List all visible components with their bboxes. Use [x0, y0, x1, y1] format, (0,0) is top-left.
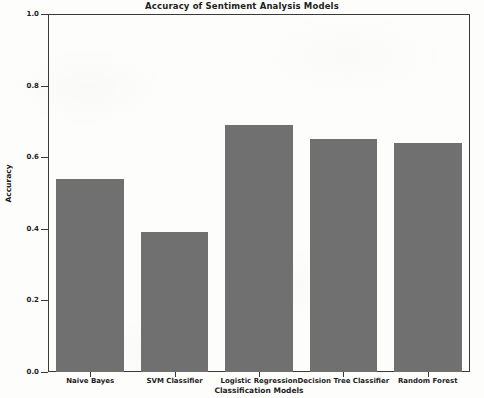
y-axis-tick-label: 0.0 [0, 368, 39, 376]
y-axis-tick-label: 1.0 [0, 10, 39, 18]
bar [310, 139, 378, 372]
y-axis-tick [41, 157, 48, 158]
y-axis-tick-label: 0.8 [0, 82, 39, 90]
bars-layer [48, 14, 470, 372]
y-axis-tick [41, 229, 48, 230]
chart-title: Accuracy of Sentiment Analysis Models [0, 1, 484, 11]
y-axis-tick [41, 14, 48, 15]
y-axis-tick [41, 86, 48, 87]
y-axis-label: Accuracy [4, 144, 13, 224]
x-axis-label: Classification Models [48, 386, 470, 395]
bar-chart-figure: Accuracy of Sentiment Analysis Models 0.… [0, 0, 484, 398]
bar [394, 143, 462, 372]
y-axis-tick-label: 0.4 [0, 225, 39, 233]
bar [225, 125, 293, 372]
bar [56, 179, 124, 372]
y-axis-tick-label: 0.2 [0, 296, 39, 304]
bar [141, 232, 209, 372]
y-axis-tick [41, 372, 48, 373]
y-axis-tick [41, 300, 48, 301]
